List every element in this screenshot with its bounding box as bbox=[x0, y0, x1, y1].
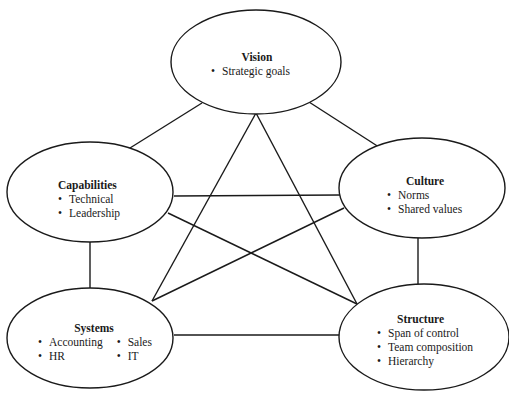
node-title: Structure bbox=[377, 312, 477, 326]
node-culture: Culture Norms Shared values bbox=[387, 174, 467, 216]
list-item: Shared values bbox=[387, 202, 467, 216]
list-item: Team composition bbox=[377, 340, 477, 354]
edge-vision-capabilities bbox=[130, 103, 202, 148]
node-structure: Structure Span of control Team compositi… bbox=[377, 312, 477, 368]
node-capabilities: Capabilities Technical Leadership bbox=[58, 178, 128, 220]
list-item: HR bbox=[38, 349, 103, 363]
edge-vision-culture bbox=[309, 102, 382, 149]
node-items: Norms Shared values bbox=[387, 188, 467, 216]
node-vision: Vision Strategic goals bbox=[211, 50, 303, 78]
edge-capabilities-structure bbox=[168, 213, 357, 304]
edge-culture-systems bbox=[152, 208, 344, 301]
node-title: Culture bbox=[387, 174, 467, 188]
node-title: Capabilities bbox=[58, 178, 128, 192]
list-item: Span of control bbox=[377, 326, 477, 340]
list-item: Norms bbox=[387, 188, 467, 202]
node-title: Vision bbox=[211, 50, 303, 64]
list-item: Sales bbox=[117, 335, 152, 349]
node-title: Systems bbox=[38, 321, 150, 335]
list-item: Strategic goals bbox=[211, 64, 303, 78]
node-systems: Systems Accounting HR Sales IT bbox=[38, 321, 150, 363]
list-item: IT bbox=[117, 349, 152, 363]
node-items: Span of control Team composition Hierarc… bbox=[377, 326, 477, 368]
list-item: Accounting bbox=[38, 335, 103, 349]
node-items: Strategic goals bbox=[211, 64, 303, 78]
list-item: Technical bbox=[58, 192, 128, 206]
organizational-diagram: Vision Strategic goals Capabilities Tech… bbox=[0, 0, 509, 394]
node-items-col-1: Accounting HR bbox=[38, 335, 103, 363]
node-columns: Accounting HR Sales IT bbox=[38, 335, 150, 363]
node-items-col-2: Sales IT bbox=[117, 335, 152, 363]
list-item: Leadership bbox=[58, 206, 128, 220]
edge-capabilities-culture bbox=[174, 195, 340, 196]
node-items: Technical Leadership bbox=[58, 192, 128, 220]
list-item: Hierarchy bbox=[377, 354, 477, 368]
